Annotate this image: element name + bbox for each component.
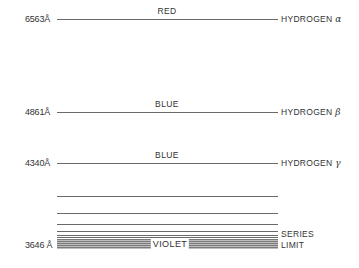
series-label-line2: LIMIT xyxy=(281,240,304,250)
series-label-line1: SERIES xyxy=(281,229,314,239)
spectral-line-h-zeta xyxy=(57,224,278,225)
color-label-blue-gamma: BLUE xyxy=(155,150,179,160)
wavelength-label-series-limit: 3646 Å xyxy=(25,240,52,250)
color-label-red: RED xyxy=(157,6,176,16)
spectral-line-h-delta xyxy=(57,196,278,197)
color-label-blue-beta: BLUE xyxy=(155,99,179,109)
spectral-line-h-epsilon xyxy=(57,213,278,214)
series-label-h-gamma: HYDROGEN γ xyxy=(281,158,341,168)
beta-symbol: β xyxy=(335,107,341,117)
hydrogen-text: HYDROGEN xyxy=(281,14,333,24)
spectral-line-h-eta xyxy=(57,231,278,232)
spectral-line-h-beta xyxy=(57,112,278,113)
series-label-h-beta: HYDROGEN β xyxy=(281,107,341,117)
wavelength-label-h-beta: 4861Å xyxy=(25,107,50,117)
wavelength-label-h-gamma: 4340Å xyxy=(25,158,50,168)
color-label-violet: VIOLET xyxy=(151,239,189,249)
hydrogen-text: HYDROGEN xyxy=(281,107,333,117)
spectral-line-h-theta xyxy=(57,235,278,236)
alpha-symbol: α xyxy=(335,14,341,24)
gamma-symbol: γ xyxy=(335,158,341,168)
spectral-line-h-gamma xyxy=(57,163,278,164)
spectral-line-h-iota xyxy=(57,237,278,238)
hydrogen-text: HYDROGEN xyxy=(281,158,333,168)
spectral-line-h-alpha xyxy=(57,19,278,20)
series-label-h-alpha: HYDROGEN α xyxy=(281,14,342,24)
wavelength-label-h-alpha: 6563Å xyxy=(25,14,50,24)
